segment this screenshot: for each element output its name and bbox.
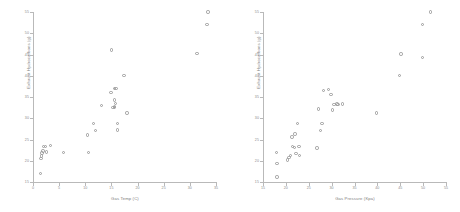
data-point: [319, 129, 322, 132]
data-point: [87, 151, 90, 154]
data-point: [297, 145, 300, 148]
data-point: [275, 175, 278, 178]
y-tick-label: 55: [243, 10, 259, 14]
x-tick-label: 5: [50, 186, 68, 190]
x-tick-label: 20: [129, 186, 147, 190]
y-tick-label: 35: [243, 95, 259, 99]
x-tick-label: 15: [254, 186, 272, 190]
x-tick-label: 15: [102, 186, 120, 190]
y-tick: [260, 140, 263, 141]
x-tick-label: 35: [346, 186, 364, 190]
data-point: [94, 129, 97, 132]
y-tick-label: 35: [13, 95, 29, 99]
data-point: [205, 23, 208, 26]
data-point: [317, 107, 320, 110]
y-tick-label: 55: [13, 10, 29, 14]
data-point: [116, 122, 119, 125]
data-point: [293, 132, 296, 135]
chart-panel-gas-pressure: Exhaust Hydrocarbons (g) Gas Pressure (K…: [230, 0, 460, 212]
y-tick-label: 45: [243, 53, 259, 57]
y-tick-label: 15: [13, 180, 29, 184]
data-point: [294, 152, 297, 155]
x-tick-label: 45: [391, 186, 409, 190]
data-point: [336, 103, 339, 106]
data-point: [40, 154, 43, 157]
y-tick-label: 40: [243, 74, 259, 78]
data-point: [62, 151, 65, 154]
data-point: [114, 102, 117, 105]
y-tick: [260, 12, 263, 13]
x-tick-label: 50: [414, 186, 432, 190]
plot-area-right: [263, 12, 446, 182]
y-tick-label: 20: [243, 159, 259, 163]
y-tick: [30, 76, 33, 77]
x-axis-label: Gas Temp (C): [33, 196, 217, 201]
data-point: [296, 122, 299, 125]
scatter-figure: Exhaust Hydrocarbons (g) Gas Temp (C) 15…: [0, 0, 460, 212]
data-point: [290, 135, 293, 138]
y-tick: [30, 97, 33, 98]
data-point: [322, 89, 325, 92]
chart-panel-gas-temp: Exhaust Hydrocarbons (g) Gas Temp (C) 15…: [0, 0, 230, 212]
x-tick-label: 25: [155, 186, 173, 190]
data-point: [331, 108, 334, 111]
data-point: [100, 104, 103, 107]
x-tick-label: 10: [76, 186, 94, 190]
y-tick: [260, 161, 263, 162]
data-point: [315, 146, 318, 149]
data-point: [86, 133, 89, 136]
data-point: [92, 122, 95, 125]
y-tick-label: 50: [13, 31, 29, 35]
data-point: [421, 23, 424, 26]
y-tick-label: 15: [243, 180, 259, 184]
x-tick-label: 35: [207, 186, 225, 190]
data-point: [329, 93, 332, 96]
y-tick-label: 25: [243, 138, 259, 142]
x-tick-label: 0: [24, 186, 42, 190]
data-point: [116, 128, 119, 131]
x-tick-label: 30: [181, 186, 199, 190]
data-point: [421, 56, 424, 59]
y-tick-label: 45: [13, 53, 29, 57]
y-tick: [30, 161, 33, 162]
y-tick: [260, 55, 263, 56]
data-point: [327, 88, 330, 91]
data-point: [110, 48, 113, 51]
x-axis-label: Gas Pressure (Kpa): [263, 196, 447, 201]
x-tick-label: 40: [368, 186, 386, 190]
data-point: [49, 144, 52, 147]
plot-area-left: [33, 12, 216, 182]
y-tick: [30, 12, 33, 13]
data-point: [275, 151, 278, 154]
data-point: [122, 74, 125, 77]
y-tick-label: 20: [13, 159, 29, 163]
data-point: [320, 122, 323, 125]
data-point: [341, 102, 344, 105]
y-tick: [260, 118, 263, 119]
data-point: [113, 106, 116, 109]
x-tick-label: 30: [323, 186, 341, 190]
x-tick-label: 55: [437, 186, 455, 190]
y-tick-label: 40: [13, 74, 29, 78]
y-tick: [30, 118, 33, 119]
data-point: [293, 146, 296, 149]
data-point: [125, 111, 128, 114]
y-tick: [30, 140, 33, 141]
y-tick: [260, 76, 263, 77]
data-point: [114, 87, 117, 90]
x-tick-label: 20: [277, 186, 295, 190]
data-point: [398, 74, 401, 77]
data-point: [399, 52, 402, 55]
data-point: [289, 154, 292, 157]
data-point: [45, 150, 48, 153]
data-point: [429, 10, 432, 13]
data-point: [206, 10, 209, 13]
y-tick: [260, 97, 263, 98]
y-tick-label: 30: [13, 116, 29, 120]
x-tick-label: 25: [300, 186, 318, 190]
data-point: [298, 154, 301, 157]
data-point: [195, 52, 198, 55]
y-tick: [30, 33, 33, 34]
y-tick: [260, 33, 263, 34]
y-tick-label: 30: [243, 116, 259, 120]
